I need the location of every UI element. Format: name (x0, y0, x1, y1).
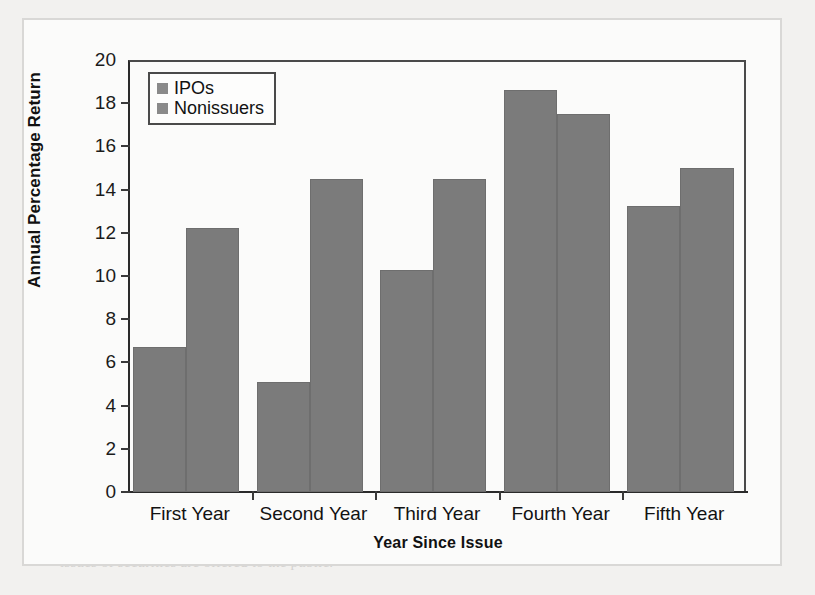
x-category-label: Third Year (375, 503, 499, 525)
bar-group (375, 60, 499, 492)
y-tick-label: 18 (86, 93, 116, 112)
y-tick-label-wrap: 18 (78, 103, 116, 104)
x-category-label: Fourth Year (499, 503, 623, 525)
legend-item-ipos: IPOs (157, 78, 264, 98)
y-tick-label: 14 (86, 180, 116, 199)
y-tick-label: 16 (86, 136, 116, 155)
x-category-label: Fifth Year (622, 503, 746, 525)
bar-ipos-third-year[interactable] (380, 270, 433, 492)
y-tick-label-wrap: 4 (78, 406, 116, 407)
y-tick-label: 20 (86, 50, 116, 69)
x-category-label: First Year (128, 503, 252, 525)
y-tick-label-wrap: 16 (78, 146, 116, 147)
legend-label-ipos: IPOs (174, 78, 214, 98)
y-tick-label: 0 (86, 482, 116, 501)
bar-nonissuers-first-year[interactable] (186, 228, 239, 492)
y-tick-label-wrap: 20 (78, 60, 116, 61)
bar-ipos-fourth-year[interactable] (504, 90, 557, 492)
y-tick-label: 10 (86, 266, 116, 285)
x-tick-mark (622, 491, 624, 500)
y-tick-label-wrap: 12 (78, 233, 116, 234)
legend-swatch-ipos (157, 83, 168, 94)
y-tick-label: 8 (86, 309, 116, 328)
bar-ipos-first-year[interactable] (133, 347, 186, 492)
bar-ipos-fifth-year[interactable] (627, 206, 680, 492)
x-tick-mark (252, 491, 254, 500)
legend-swatch-nonissuers (157, 103, 168, 114)
bar-group (499, 60, 623, 492)
x-tick-mark (375, 491, 377, 500)
bar-nonissuers-second-year[interactable] (310, 179, 363, 492)
bar-nonissuers-third-year[interactable] (433, 179, 486, 492)
y-tick-label: 4 (86, 396, 116, 415)
x-tick-mark (499, 491, 501, 500)
y-axis-title: Annual Percentage Return (25, 15, 45, 345)
x-axis-title: Year Since Issue (128, 534, 748, 552)
legend-label-nonissuers: Nonissuers (174, 98, 264, 118)
scanned-page: Direct Search MarketsA direct search mar… (0, 0, 815, 595)
y-tick-label: 6 (86, 352, 116, 371)
y-tick-label-wrap: 10 (78, 276, 116, 277)
bar-ipos-second-year[interactable] (257, 382, 310, 492)
y-tick-label-wrap: 14 (78, 190, 116, 191)
y-tick-label: 2 (86, 439, 116, 458)
legend-item-nonissuers: Nonissuers (157, 98, 264, 118)
y-tick-label-wrap: 0 (78, 492, 116, 493)
bar-chart: Annual Percentage Return 201816141210864… (0, 0, 815, 595)
y-tick-label: 12 (86, 223, 116, 242)
x-category-label: Second Year (252, 503, 376, 525)
chart-legend: IPOs Nonissuers (148, 72, 276, 125)
bar-nonissuers-fourth-year[interactable] (557, 114, 610, 492)
y-tick-label-wrap: 2 (78, 449, 116, 450)
bar-nonissuers-fifth-year[interactable] (680, 168, 733, 492)
y-tick-label-wrap: 6 (78, 362, 116, 363)
y-tick-label-wrap: 8 (78, 319, 116, 320)
bar-group (622, 60, 746, 492)
